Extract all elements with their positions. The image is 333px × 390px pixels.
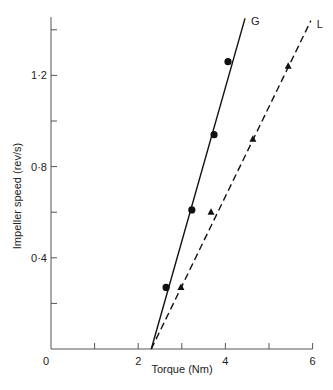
- circle-marker: [163, 284, 170, 291]
- x-axis-title: Torque (Nm): [151, 363, 212, 375]
- triangle-marker: [285, 62, 292, 69]
- y-axis-title: Impeller speed (rev/s): [11, 143, 23, 249]
- triangle-marker: [208, 208, 215, 215]
- y-tick-label: 1·2: [31, 69, 47, 81]
- x-tick-label: 6: [310, 355, 316, 367]
- chart: 0·40·81·2 0246 GL Torque (Nm) Impeller s…: [0, 0, 333, 390]
- circle-marker: [210, 131, 217, 138]
- y-tick-label: 0·4: [31, 252, 47, 264]
- x-tick-label: 0: [43, 355, 49, 367]
- y-axis: 0·40·81·2: [31, 17, 57, 349]
- x-tick-label: 4: [222, 355, 228, 367]
- fit-line-g: [151, 18, 245, 349]
- y-tick-label: 0·8: [31, 161, 47, 173]
- x-tick-label: 2: [135, 355, 141, 367]
- series-label-l: L: [317, 18, 323, 30]
- circle-marker: [188, 206, 195, 213]
- series-labels: GL: [251, 15, 323, 29]
- circle-marker: [224, 58, 231, 65]
- data-points: [163, 58, 292, 291]
- series-label-g: G: [251, 15, 260, 27]
